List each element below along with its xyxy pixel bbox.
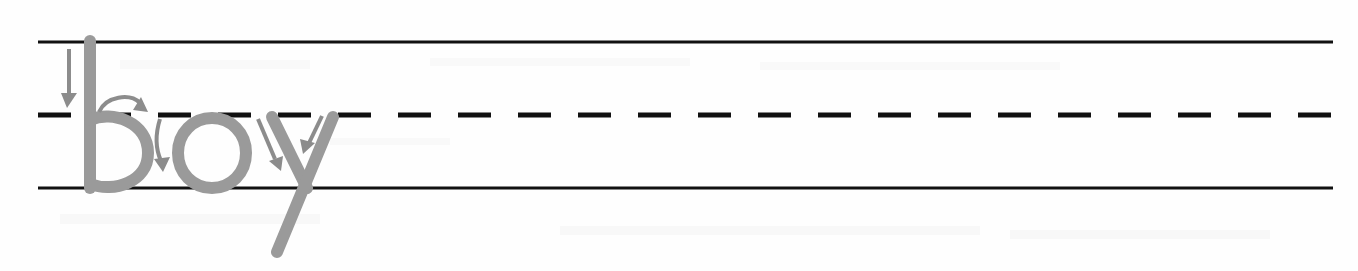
letter-stroke-o-circle (178, 118, 246, 188)
arrow-b-bowl-down-shaft-icon (157, 119, 161, 161)
worksheet-canvas (0, 0, 1358, 271)
letter-stroke-b-bowl (90, 117, 148, 188)
handwriting-worksheet: boy (0, 0, 1358, 271)
arrow-b-bowl-down-head-icon (154, 157, 170, 172)
arrow-b-stem-head-icon (61, 93, 77, 108)
